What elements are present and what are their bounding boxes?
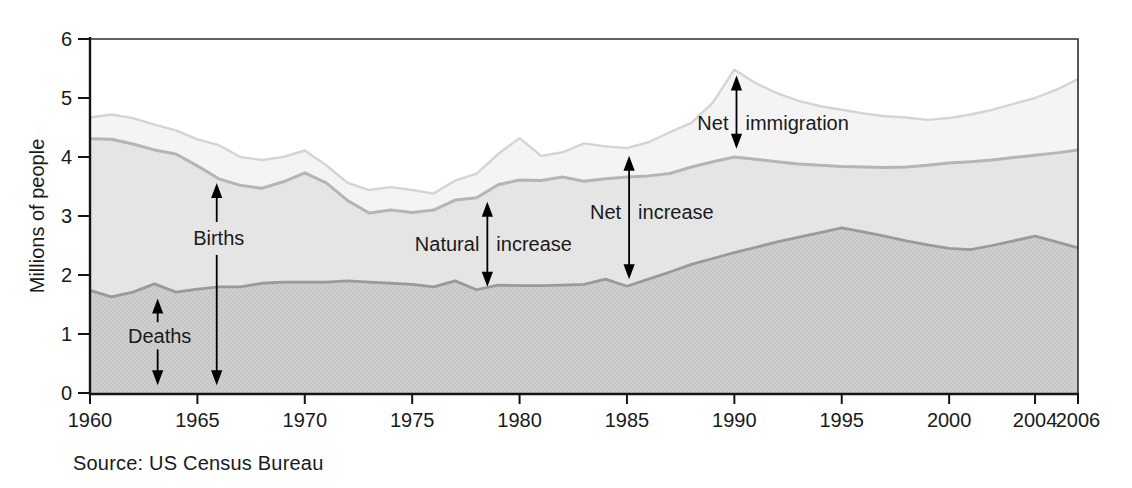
x-tick-label: 2006	[1056, 409, 1101, 431]
y-tick-label: 3	[61, 205, 72, 227]
y-tick-label: 6	[61, 28, 72, 50]
annotation-label-left: Net	[697, 112, 729, 134]
x-tick-label: 2000	[927, 409, 972, 431]
y-tick-label: 1	[61, 323, 72, 345]
y-tick-label: 5	[61, 87, 72, 109]
population-area-chart: 0123456196019651970197519801985199019952…	[0, 0, 1132, 445]
x-tick-label: 1960	[68, 409, 113, 431]
x-tick-label: 1995	[819, 409, 864, 431]
annotation-label-right: increase	[496, 233, 572, 255]
x-tick-label: 1970	[283, 409, 328, 431]
y-tick-label: 0	[61, 382, 72, 404]
annotation-label-right: increase	[638, 201, 714, 223]
x-tick-label: 2004	[1013, 409, 1058, 431]
source-note: Source: US Census Bureau	[73, 452, 323, 475]
x-tick-label: 1975	[390, 409, 435, 431]
x-tick-label: 1980	[497, 409, 542, 431]
annotation-label: Deaths	[128, 325, 191, 347]
y-tick-label: 4	[61, 146, 72, 168]
y-axis-title: Millions of people	[26, 139, 48, 294]
annotation-label-right: immigration	[745, 112, 848, 134]
annotation-label: Births	[193, 227, 244, 249]
annotation-label-left: Natural	[415, 233, 479, 255]
x-tick-label: 1990	[712, 409, 757, 431]
x-tick-label: 1985	[605, 409, 650, 431]
figure-us-population-components: 0123456196019651970197519801985199019952…	[0, 0, 1132, 488]
y-tick-label: 2	[61, 264, 72, 286]
x-tick-label: 1965	[175, 409, 220, 431]
annotation-label-left: Net	[590, 201, 622, 223]
